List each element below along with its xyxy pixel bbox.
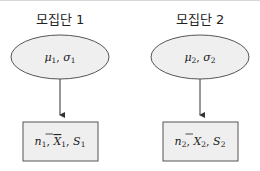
population-1-title: 모집단 1 bbox=[36, 12, 84, 27]
population-1: 모집단 1 μ1, σ1 n1, X1, S1 bbox=[11, 12, 109, 161]
population-2-title: 모집단 2 bbox=[176, 12, 224, 27]
population-2: 모집단 2 μ2, σ2 n2, X2, S2 bbox=[151, 12, 249, 161]
two-population-diagram: 모집단 1 μ1, σ1 n1, X1, S1 모집단 2 μ2, σ2 n2,… bbox=[0, 0, 260, 171]
